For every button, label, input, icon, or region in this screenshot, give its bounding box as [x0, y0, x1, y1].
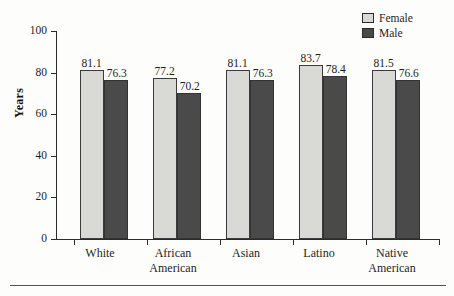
bar-value-white-female: 81.1 [82, 57, 102, 69]
bar-native-american-male[interactable]: 76.6 [396, 80, 420, 239]
bar-value-african-american-female: 77.2 [155, 65, 175, 77]
legend-swatch-female-icon [362, 13, 374, 23]
x-category-label-asian-line1: Asian [232, 246, 260, 260]
chart-figure: Female Male Years 0 20 40 60 80 100 [0, 0, 454, 296]
y-tick-0: 0 [51, 239, 56, 240]
y-tick-label-0: 0 [41, 232, 47, 244]
bar-value-latino-female: 83.7 [301, 52, 321, 64]
bar-value-native-american-female: 81.5 [374, 57, 394, 69]
legend-label-female: Female [379, 12, 413, 24]
x-category-label-african-american-line1: African [155, 246, 192, 260]
x-tick-2 [220, 240, 221, 245]
bar-group-latino: 83.7 78.4 [299, 65, 347, 239]
bar-latino-female[interactable]: 83.7 [299, 65, 323, 239]
x-category-label-native-american-line1: Native [376, 246, 408, 260]
x-category-label-african-american-line2: American [128, 261, 218, 276]
bar-asian-male[interactable]: 76.3 [250, 80, 274, 239]
bar-african-american-female[interactable]: 77.2 [153, 78, 177, 239]
y-tick-label-20: 20 [36, 190, 48, 202]
y-tick-label-80: 80 [36, 66, 48, 78]
x-tick-5 [439, 240, 440, 245]
bar-white-female[interactable]: 81.1 [80, 70, 104, 239]
bar-value-white-male: 76.3 [107, 67, 127, 79]
y-tick-40: 40 [51, 156, 56, 157]
y-tick-20: 20 [51, 197, 56, 198]
bar-white-male[interactable]: 76.3 [104, 80, 128, 239]
y-tick-label-40: 40 [36, 149, 48, 161]
bar-group-asian: 81.1 76.3 [226, 70, 274, 239]
x-category-label-native-american: Native American [347, 246, 437, 276]
y-tick-label-100: 100 [30, 24, 47, 36]
x-category-label-white-line1: White [85, 246, 114, 260]
x-tick-4 [366, 240, 367, 245]
x-axis-line [56, 239, 440, 240]
y-tick-label-60: 60 [36, 107, 48, 119]
x-category-label-native-american-line2: American [347, 261, 437, 276]
bar-value-african-american-male: 70.2 [180, 80, 200, 92]
y-axis-title: Years [12, 88, 27, 118]
bar-value-latino-male: 78.4 [326, 63, 346, 75]
bar-value-asian-male: 76.3 [253, 67, 273, 79]
bottom-divider [10, 285, 446, 286]
y-tick-100: 100 [51, 31, 56, 32]
x-tick-3 [293, 240, 294, 245]
bar-group-white: 81.1 76.3 [80, 70, 128, 239]
x-tick-1 [147, 240, 148, 245]
bar-value-native-american-male: 76.6 [399, 67, 419, 79]
bar-value-asian-female: 81.1 [228, 57, 248, 69]
bar-group-african-american: 77.2 70.2 [153, 78, 201, 239]
bar-native-american-female[interactable]: 81.5 [372, 70, 396, 240]
bar-african-american-male[interactable]: 70.2 [177, 93, 201, 239]
y-axis-line [56, 31, 57, 240]
bar-asian-female[interactable]: 81.1 [226, 70, 250, 239]
x-tick-0 [74, 240, 75, 245]
bar-group-native-american: 81.5 76.6 [372, 70, 420, 240]
plot-area: 0 20 40 60 80 100 81.1 76.3 [56, 31, 440, 240]
y-tick-80: 80 [51, 73, 56, 74]
x-category-label-latino-line1: Latino [303, 246, 334, 260]
bar-latino-male[interactable]: 78.4 [323, 76, 347, 239]
y-tick-60: 60 [51, 114, 56, 115]
legend-item-female: Female [362, 11, 450, 24]
